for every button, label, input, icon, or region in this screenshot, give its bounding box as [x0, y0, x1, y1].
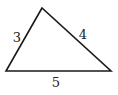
side-label-right: 4: [79, 27, 87, 42]
side-label-bottom: 5: [52, 75, 60, 90]
side-label-left: 3: [13, 30, 21, 45]
triangle-diagram: 3 4 5: [0, 0, 118, 95]
triangle-shape: [6, 8, 111, 71]
